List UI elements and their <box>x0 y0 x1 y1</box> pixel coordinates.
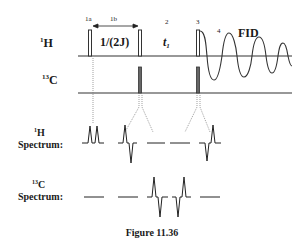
step-4-label: 4 <box>217 27 221 35</box>
step-3-label: 3 <box>196 18 200 26</box>
proton-spectrum <box>82 125 221 163</box>
figure-caption: Figure 11.36 <box>126 227 179 238</box>
step-1b-label: 1b <box>110 15 118 23</box>
carbon-channel-label: 13C <box>42 73 58 87</box>
step-2-label: 2 <box>165 18 169 26</box>
proton-pulse-3 <box>197 30 200 56</box>
carbon-spectrum-label: 13C <box>32 179 45 190</box>
carbon-pulse-1b <box>139 67 142 93</box>
proton-pulse-1b <box>139 30 142 56</box>
proton-channel-label: 1H <box>40 36 54 50</box>
pulse-sequence-diagram: 1H 13C 1a 1b 2 3 4 1/(2J) t1 FID <box>0 0 305 241</box>
proton-spectrum-label-line2: Spectrum: <box>18 139 63 150</box>
delay-arrow <box>93 24 138 28</box>
evolution-time-label: t1 <box>163 35 170 50</box>
fid-label: FID <box>238 26 259 40</box>
proton-pulse-1a <box>89 30 92 56</box>
carbon-spectrum <box>84 177 220 217</box>
proton-spectrum-label: 1H <box>34 127 45 138</box>
step-1a-label: 1a <box>85 15 93 23</box>
carbon-spectrum-label-line2: Spectrum: <box>18 191 63 202</box>
carbon-pulse-3 <box>197 67 200 93</box>
delay-label: 1/(2J) <box>100 35 129 49</box>
dotted-guides <box>93 58 210 132</box>
